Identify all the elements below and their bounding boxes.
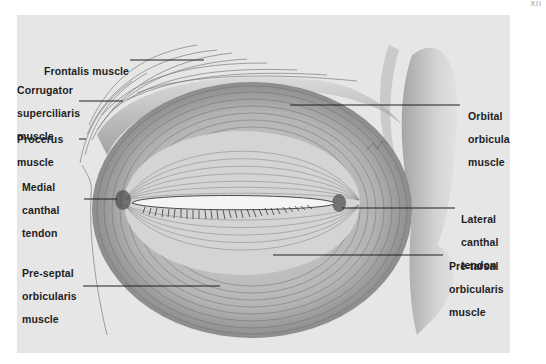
label-pre-tarsal-orbicularis-muscle: Pre-tarsal orbicularis muscle	[449, 249, 504, 330]
medial-canthus-shade	[115, 190, 131, 210]
label-orbital-orbicularis-muscle: Orbital orbicularis muscle	[468, 99, 510, 180]
eyelid-margin	[132, 196, 335, 210]
label-pre-septal-orbicularis-muscle: Pre-septal orbicularis muscle	[22, 256, 77, 337]
illustration-panel: Frontalis muscle Corrugator superciliari…	[17, 15, 510, 353]
corner-page-mark: XII	[530, 0, 542, 7]
label-medial-canthal-tendon: Medial canthal tendon	[22, 170, 59, 251]
